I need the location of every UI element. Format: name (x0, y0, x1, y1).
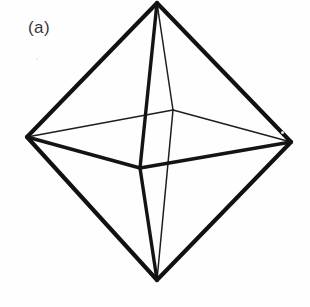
figure-panel: (a) (0, 0, 310, 307)
outer-silhouette-edges (27, 3, 291, 280)
edge-bottom-left-line (27, 137, 157, 280)
front-equator-edges (27, 3, 291, 280)
edge-bottom-back-line (157, 110, 173, 280)
edge-top-right-line (157, 3, 291, 142)
edge-left-front-line (27, 137, 140, 168)
edge-top-front-line (140, 3, 157, 168)
panel-label: (a) (28, 19, 50, 36)
hidden-back-edges (27, 3, 291, 280)
octahedron-drawing (0, 0, 310, 307)
